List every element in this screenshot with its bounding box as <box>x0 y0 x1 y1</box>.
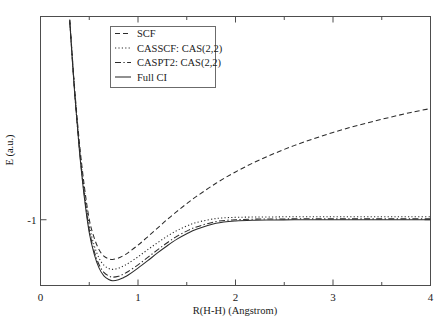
x-axis-title: R(H-H) (Angstrom) <box>193 305 278 317</box>
legend-label: CASSCF: CAS(2,2) <box>137 43 223 55</box>
y-tick-label: -1 <box>27 214 36 226</box>
potential-energy-curve-figure: 01234 -1 R(H-H) (Angstrom) E (a.u.) SCFC… <box>0 0 441 324</box>
legend-label: CASPT2: CAS(2,2) <box>137 57 222 69</box>
legend-label: Full CI <box>137 72 168 83</box>
x-tick-label: 0 <box>38 291 44 303</box>
y-axis-tick-labels: -1 <box>27 214 36 226</box>
y-axis-title: E (a.u.) <box>4 134 16 166</box>
x-tick-label: 3 <box>330 291 336 303</box>
x-tick-label: 1 <box>135 291 141 303</box>
legend-label: SCF <box>137 28 156 39</box>
x-tick-label: 4 <box>428 291 434 303</box>
chart-canvas: 01234 -1 R(H-H) (Angstrom) E (a.u.) SCFC… <box>0 0 441 324</box>
chart-legend: SCFCASSCF: CAS(2,2)CASPT2: CAS(2,2)Full … <box>111 27 223 88</box>
x-tick-label: 2 <box>233 291 239 303</box>
